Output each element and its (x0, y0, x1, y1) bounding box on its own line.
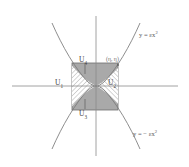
figure-container: U1 U2 U3 U4 (η, η) y = εx2 y = − εx2 (0, 0, 189, 167)
region-label-u4-sub: 4 (84, 60, 87, 66)
lower-parabola-label: y = − εx2 (133, 130, 157, 138)
region-label-u3-sub: 3 (84, 114, 87, 120)
upper-parabola-label-exponent: 2 (155, 30, 157, 35)
upper-parabola-label: y = εx2 (139, 31, 158, 39)
region-label-u2-sub: 2 (113, 83, 116, 89)
eta-point-marker (117, 64, 119, 66)
region-label-u2: U2 (108, 79, 116, 89)
upper-parabola-label-base: y = εx (139, 31, 155, 38)
lower-parabola-label-base: y = − εx (133, 130, 155, 137)
lower-parabola-label-exponent: 2 (155, 129, 157, 134)
region-label-u4: U4 (79, 56, 87, 66)
region-label-u1: U1 (55, 79, 63, 89)
region-label-u3: U3 (79, 110, 87, 120)
plot-canvas (0, 0, 189, 167)
eta-point-label: (η, η) (106, 57, 119, 63)
region-label-u1-sub: 1 (60, 83, 63, 89)
